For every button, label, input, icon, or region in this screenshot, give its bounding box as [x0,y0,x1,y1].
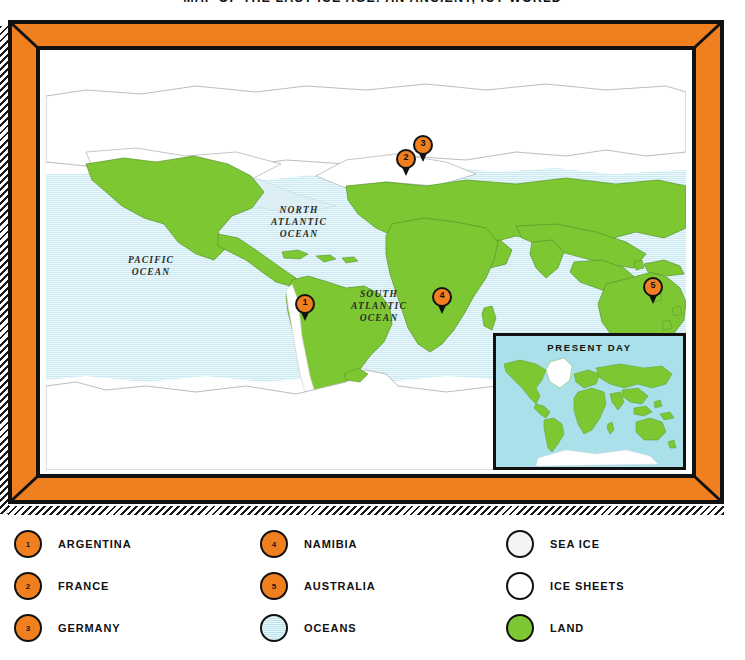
legend-item-label: ICE SHEETS [550,580,624,592]
legend-swatch-num: 4 [260,530,288,558]
legend-item-sea-ice[interactable]: SEA ICE [506,530,600,558]
map-pin-namibia[interactable]: 4 [431,287,453,315]
landmass-island-3 [662,320,672,330]
legend-item-label: ARGENTINA [58,538,132,550]
inset-title: PRESENT DAY [496,342,683,353]
legend-swatch-num: 5 [260,572,288,600]
legend-swatch-icesheet [506,572,534,600]
legend-ocean-hatch [263,617,285,639]
legend-swatch-number: 5 [262,574,286,598]
present-day-inset[interactable]: PRESENT DAY [493,333,686,470]
legend-item-label: OCEANS [304,622,356,634]
legend: 1ARGENTINA2FRANCE3GERMANY4NAMIBIA5AUSTRA… [0,516,745,660]
legend-item-ice-sheets[interactable]: ICE SHEETS [506,572,624,600]
landmass-island-2 [672,306,682,316]
legend-swatch-ocean [260,614,288,642]
legend-item-germany[interactable]: 3GERMANY [14,614,121,642]
legend-item-label: FRANCE [58,580,109,592]
legend-swatch-number: 2 [16,574,40,598]
map-pin-australia[interactable]: 5 [642,277,664,305]
map-pin-argentina[interactable]: 1 [294,294,316,322]
legend-swatch-num: 1 [14,530,42,558]
legend-item-label: SEA ICE [550,538,600,550]
map-pin-number: 1 [294,297,316,307]
legend-swatch-number: 3 [16,616,40,640]
legend-swatch-seaice [506,530,534,558]
legend-item-argentina[interactable]: 1ARGENTINA [14,530,132,558]
legend-swatch-number: 1 [16,532,40,556]
map-pin-number: 4 [431,290,453,300]
legend-swatch-land [506,614,534,642]
page-title: MAP OF THE LAST ICE AGE: AN ANCIENT, ICY… [0,0,745,5]
legend-item-label: GERMANY [58,622,121,634]
legend-item-france[interactable]: 2FRANCE [14,572,109,600]
legend-item-label: NAMIBIA [304,538,357,550]
present-day-map-graphic [496,336,683,467]
landmass-philippines [634,260,644,270]
legend-item-label: LAND [550,622,584,634]
legend-swatch-num: 2 [14,572,42,600]
legend-swatch-num: 3 [14,614,42,642]
legend-item-label: AUSTRALIA [304,580,376,592]
legend-swatch-number: 4 [262,532,286,556]
map-pin-germany[interactable]: 3 [412,135,434,163]
map-frame: PACIFIC OCEAN NORTH ATLANTIC OCEAN SOUTH… [8,20,724,506]
world-map[interactable]: PACIFIC OCEAN NORTH ATLANTIC OCEAN SOUTH… [46,56,686,470]
legend-item-australia[interactable]: 5AUSTRALIA [260,572,376,600]
legend-item-land[interactable]: LAND [506,614,584,642]
map-pin-number: 3 [412,138,434,148]
legend-item-namibia[interactable]: 4NAMIBIA [260,530,357,558]
map-pin-number: 5 [642,280,664,290]
legend-item-oceans[interactable]: OCEANS [260,614,356,642]
